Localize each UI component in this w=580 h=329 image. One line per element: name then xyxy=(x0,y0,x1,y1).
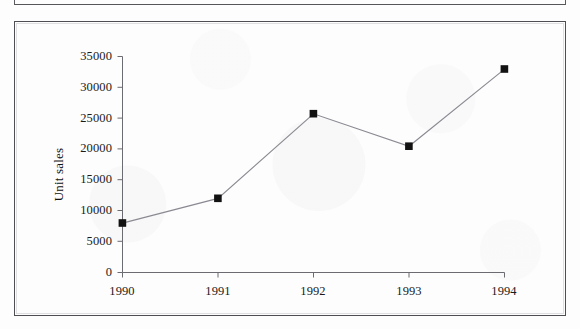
x-tick-label-1992: 1992 xyxy=(283,285,343,298)
x-tick-label-1990: 1990 xyxy=(92,285,152,298)
x-tick-label-1991: 1991 xyxy=(188,285,248,298)
y-tick-label-0: 0 xyxy=(54,266,112,279)
figure-page: 35000 30000 25000 20000 15000 10000 5000… xyxy=(0,0,580,329)
y-axis-title: Unit sales xyxy=(51,115,66,235)
y-tick-label-35000: 35000 xyxy=(54,50,112,63)
y-tick-label-5000: 5000 xyxy=(54,235,112,248)
x-tick-label-1994: 1994 xyxy=(474,285,534,298)
y-tick-label-30000: 30000 xyxy=(54,81,112,94)
x-tick-label-1993: 1993 xyxy=(379,285,439,298)
preceding-box-bottom-edge xyxy=(14,0,566,5)
